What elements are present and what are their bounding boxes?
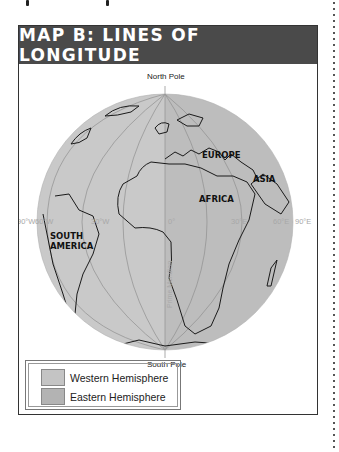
region-label-asia: ASIA [253, 174, 276, 184]
label-90e: 90°E [295, 217, 311, 226]
label-90w: 90°W [19, 217, 36, 226]
title-bar: MAP B: LINES OF LONGITUDE [19, 26, 317, 64]
legend-swatch-eastern [41, 388, 65, 405]
cropped-text-fragment [18, 0, 318, 8]
map-panel: MAP B: LINES OF LONGITUDE [18, 25, 318, 415]
legend-item-eastern: Eastern Hemisphere [41, 387, 177, 406]
north-pole-label: North Pole [147, 72, 185, 81]
legend-item-western: Western Hemisphere [41, 368, 177, 387]
label-30e: 30°E [231, 217, 247, 226]
label-30w: 30°W [91, 217, 110, 226]
region-label-south-america-1: SOUTH [50, 231, 83, 241]
dotted-cut-line [332, 0, 336, 452]
label-60w: 60°W [35, 217, 54, 226]
label-0: 0° [168, 217, 175, 226]
legend: Western Hemisphere Eastern Hemisphere [25, 360, 181, 410]
eastern-hemisphere-fill [165, 64, 317, 414]
legend-label-western: Western Hemisphere [70, 372, 168, 384]
region-label-europe: EUROPE [202, 150, 241, 160]
region-label-south-america-2: AMERICA [50, 241, 94, 251]
legend-swatch-western [41, 369, 65, 386]
map-title: MAP B: LINES OF LONGITUDE [19, 25, 317, 65]
prime-meridian-label: Prime Meridian [166, 261, 173, 308]
legend-label-eastern: Eastern Hemisphere [70, 391, 166, 403]
label-60e: 60°E [273, 217, 289, 226]
region-label-africa: AFRICA [199, 194, 234, 204]
